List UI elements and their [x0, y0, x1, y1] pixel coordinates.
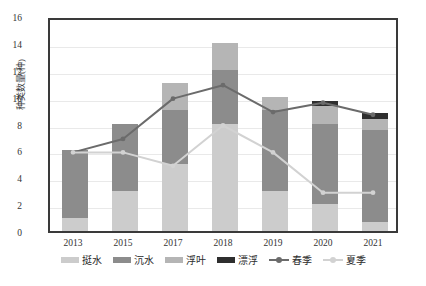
- chart-legend: 挺水沉水浮叶漂浮春季夏季: [0, 252, 426, 267]
- marker-春季-2017: [171, 96, 176, 101]
- legend-swatch-icon: [217, 257, 235, 263]
- marker-夏季-2019: [271, 150, 276, 155]
- legend-label: 漂浮: [238, 252, 258, 267]
- marker-夏季-2020: [321, 190, 326, 195]
- legend-swatch-icon: [165, 257, 183, 263]
- legend-swatch-icon: [61, 257, 79, 263]
- y-tick-16: 16: [0, 13, 22, 23]
- y-tick-12: 12: [0, 67, 22, 77]
- y-tick-4: 4: [0, 174, 22, 184]
- legend-item-春季[interactable]: 春季: [269, 252, 312, 267]
- legend-label: 沉水: [134, 252, 154, 267]
- legend-label: 浮叶: [186, 252, 206, 267]
- legend-item-漂浮[interactable]: 漂浮: [217, 252, 258, 267]
- y-tick-8: 8: [0, 121, 22, 131]
- marker-夏季-2015: [121, 150, 126, 155]
- marker-春季-2020: [321, 100, 326, 105]
- line-series-overlay: [48, 18, 398, 233]
- legend-line-icon: [323, 256, 343, 264]
- legend-label: 挺水: [82, 252, 102, 267]
- marker-春季-2021: [371, 112, 376, 117]
- legend-label: 春季: [292, 252, 312, 267]
- y-tick-2: 2: [0, 201, 22, 211]
- legend-item-挺水[interactable]: 挺水: [61, 252, 102, 267]
- y-tick-6: 6: [0, 147, 22, 157]
- x-tick-2021: 2021: [343, 238, 403, 248]
- legend-line-icon: [269, 256, 289, 264]
- marker-夏季-2017: [171, 163, 176, 168]
- legend-swatch-icon: [113, 257, 131, 263]
- legend-label: 夏季: [346, 252, 366, 267]
- marker-夏季-2021: [371, 190, 376, 195]
- y-tick-0: 0: [0, 228, 22, 238]
- legend-item-沉水[interactable]: 沉水: [113, 252, 154, 267]
- marker-夏季-2013: [71, 150, 76, 155]
- line-春季: [73, 85, 373, 152]
- marker-春季-2015: [121, 137, 126, 142]
- y-tick-14: 14: [0, 40, 22, 50]
- line-夏季: [73, 126, 373, 193]
- marker-夏季-2018: [221, 123, 226, 128]
- legend-item-夏季[interactable]: 夏季: [323, 252, 366, 267]
- marker-春季-2019: [271, 110, 276, 115]
- y-tick-10: 10: [0, 94, 22, 104]
- legend-item-浮叶[interactable]: 浮叶: [165, 252, 206, 267]
- chart-container: 种类数量(种) 1614121086420 201320152017201820…: [0, 0, 426, 286]
- marker-春季-2018: [221, 83, 226, 88]
